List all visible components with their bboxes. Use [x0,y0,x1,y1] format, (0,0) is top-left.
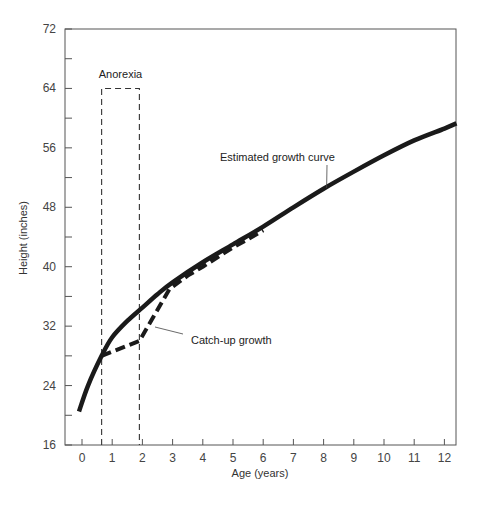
growth-chart: 1624324048566472 0123456789101112 Anorex… [0,0,477,505]
y-tick-label: 16 [43,438,57,452]
y-tick-label: 40 [43,260,57,274]
x-tick-label: 6 [260,451,267,465]
y-tick-label: 72 [43,22,57,36]
x-tick-label: 4 [199,451,206,465]
catch-up-growth-label: Catch-up growth [191,334,272,346]
y-axis-ticks: 1624324048566472 [43,22,72,452]
x-axis-ticks: 0123456789101112 [79,439,452,465]
x-tick-label: 2 [139,451,146,465]
y-axis-label: Height (inches) [17,201,29,275]
anorexia-box-outline [102,88,140,445]
x-tick-label: 10 [377,451,391,465]
anorexia-box: Anorexia [99,68,143,445]
y-tick-label: 64 [43,81,57,95]
x-tick-label: 12 [438,451,452,465]
x-axis-label: Age (years) [232,467,289,479]
x-tick-label: 8 [320,451,327,465]
x-tick-label: 5 [230,451,237,465]
y-tick-label: 32 [43,319,57,333]
anorexia-label: Anorexia [99,68,143,80]
x-tick-label: 11 [408,451,421,465]
catch-up-leader-line [155,327,183,334]
y-tick-label: 24 [43,379,57,393]
annotations: Estimated growth curveCatch-up growth [155,151,335,346]
plot-frame [65,29,456,445]
x-tick-label: 1 [109,451,116,465]
plot-border [65,29,456,445]
estimated-growth-curve-label: Estimated growth curve [220,151,335,163]
x-tick-label: 3 [169,451,176,465]
x-tick-label: 7 [290,451,297,465]
estimated-growth-curve-line [79,123,457,411]
x-tick-label: 9 [350,451,357,465]
y-tick-label: 48 [43,200,57,214]
y-tick-label: 56 [43,141,57,155]
x-tick-label: 0 [79,451,86,465]
plot-lines [79,123,457,411]
